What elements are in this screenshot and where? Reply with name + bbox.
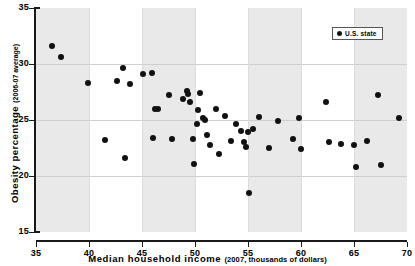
y-tick-mark bbox=[29, 232, 35, 233]
data-point bbox=[246, 190, 252, 196]
plot-area bbox=[36, 8, 407, 232]
data-point bbox=[150, 135, 156, 141]
gridline-vertical bbox=[142, 8, 143, 232]
data-point bbox=[185, 91, 191, 97]
data-point bbox=[166, 92, 172, 98]
data-point bbox=[85, 80, 91, 86]
y-axis-label: Obesity percentage (2006-07 average) bbox=[9, 14, 20, 234]
y-tick-mark bbox=[29, 8, 35, 9]
data-point bbox=[122, 155, 128, 161]
x-tick-mark bbox=[248, 242, 249, 247]
data-point bbox=[351, 142, 357, 148]
data-point bbox=[114, 78, 120, 84]
data-point bbox=[187, 99, 193, 105]
y-tick-label: 35 bbox=[9, 2, 29, 12]
data-point bbox=[256, 114, 262, 120]
x-axis-label-sub: (2007, thousands of dollars) bbox=[224, 255, 326, 264]
data-point bbox=[243, 144, 249, 150]
data-point bbox=[213, 106, 219, 112]
y-axis-label-main: Obesity percentage bbox=[9, 106, 20, 203]
x-tick-mark bbox=[407, 242, 408, 247]
gridline-horizontal bbox=[36, 176, 407, 177]
data-point bbox=[326, 139, 332, 145]
x-tick-mark bbox=[354, 242, 355, 247]
data-point bbox=[228, 138, 234, 144]
data-point bbox=[190, 136, 196, 142]
x-tick-mark bbox=[301, 242, 302, 247]
gridline-vertical bbox=[89, 8, 90, 232]
gridline-vertical bbox=[354, 8, 355, 232]
data-point bbox=[396, 115, 402, 121]
x-tick-mark bbox=[195, 242, 196, 247]
data-point bbox=[222, 113, 228, 119]
data-point bbox=[296, 115, 302, 121]
gridline-horizontal bbox=[36, 64, 407, 65]
data-point bbox=[233, 121, 239, 127]
data-point bbox=[202, 117, 208, 123]
data-point bbox=[364, 138, 370, 144]
data-point bbox=[149, 70, 155, 76]
data-point bbox=[194, 121, 200, 127]
chart-legend[interactable]: U.S. state bbox=[332, 27, 383, 40]
data-point bbox=[238, 128, 244, 134]
data-point bbox=[207, 142, 213, 148]
data-point bbox=[127, 81, 133, 87]
x-tick-mark bbox=[89, 242, 90, 247]
data-point bbox=[155, 106, 161, 112]
data-point bbox=[275, 118, 281, 124]
x-axis-label-main: Median household income bbox=[88, 253, 221, 264]
y-tick-mark bbox=[29, 64, 35, 65]
x-axis-spine bbox=[36, 240, 407, 242]
data-point bbox=[120, 65, 126, 71]
y-tick-mark bbox=[29, 176, 35, 177]
y-tick-mark bbox=[29, 120, 35, 121]
data-point bbox=[290, 136, 296, 142]
data-point bbox=[216, 151, 222, 157]
data-point bbox=[298, 146, 304, 152]
x-tick-mark bbox=[142, 242, 143, 247]
legend-marker-icon bbox=[337, 31, 342, 36]
data-point bbox=[338, 141, 344, 147]
data-point bbox=[204, 132, 210, 138]
gridline-vertical bbox=[195, 8, 196, 232]
legend-label: U.S. state bbox=[345, 30, 377, 37]
y-axis-label-sub: (2006-07 average) bbox=[12, 44, 19, 103]
x-axis-label: Median household income (2007, thousands… bbox=[0, 253, 415, 264]
data-point bbox=[197, 90, 203, 96]
x-tick-mark bbox=[36, 242, 37, 247]
data-point bbox=[323, 99, 329, 105]
data-point bbox=[169, 136, 175, 142]
data-point bbox=[378, 162, 384, 168]
gridline-horizontal bbox=[36, 120, 407, 121]
scatter-chart-figure: 3540455055606570 1520253035 Median house… bbox=[0, 0, 415, 266]
data-point bbox=[191, 161, 197, 167]
data-point bbox=[195, 107, 201, 113]
data-point bbox=[49, 43, 55, 49]
data-point bbox=[102, 137, 108, 143]
gridline-vertical bbox=[248, 8, 249, 232]
